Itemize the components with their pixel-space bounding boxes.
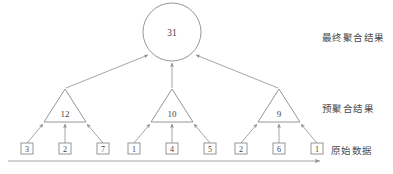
edge-leaf9-to-group3 <box>301 124 317 143</box>
group-value-3: 9 <box>277 109 282 119</box>
edge-leaf3-to-group1 <box>87 124 103 143</box>
root-node-value: 31 <box>167 28 177 38</box>
leaf-box-8: 6 <box>273 143 285 154</box>
leaf-value-2: 2 <box>63 145 67 154</box>
leaf-value-4: 1 <box>132 145 136 154</box>
leaf-value-3: 7 <box>101 145 105 154</box>
leaf-value-9: 1 <box>315 145 319 154</box>
label-raw-data: 原始数据 <box>331 143 373 157</box>
leaf-box-4: 1 <box>128 143 140 154</box>
edge-leaf1-to-group1 <box>27 124 43 143</box>
edge-leaf4-to-group2 <box>134 124 150 143</box>
leaf-box-6: 5 <box>204 143 216 154</box>
edge-leaf7-to-group3 <box>241 124 257 143</box>
leaf-box-5: 4 <box>166 143 178 154</box>
leaf-value-7: 2 <box>239 145 243 154</box>
edge-leaf6-to-group2 <box>194 124 210 143</box>
leaf-value-1: 3 <box>25 145 29 154</box>
edge-group3-to-root <box>196 55 278 88</box>
leaf-box-9: 1 <box>311 143 323 154</box>
leaf-box-3: 7 <box>97 143 109 154</box>
leaf-value-8: 6 <box>277 145 281 154</box>
group-value-2: 10 <box>168 109 178 119</box>
label-final-result: 最终聚合结果 <box>322 30 384 44</box>
label-pre-aggregation: 预聚合结果 <box>322 101 374 115</box>
leaf-box-7: 2 <box>235 143 247 154</box>
group-value-1: 12 <box>61 109 70 119</box>
edge-group1-to-root <box>66 55 148 88</box>
leaf-box-2: 2 <box>59 143 71 154</box>
leaf-box-1: 3 <box>21 143 33 154</box>
leaf-value-6: 5 <box>208 145 212 154</box>
aggregation-tree-diagram: 31 12 10 9 3 2 <box>0 0 393 174</box>
leaf-value-5: 4 <box>170 145 174 154</box>
